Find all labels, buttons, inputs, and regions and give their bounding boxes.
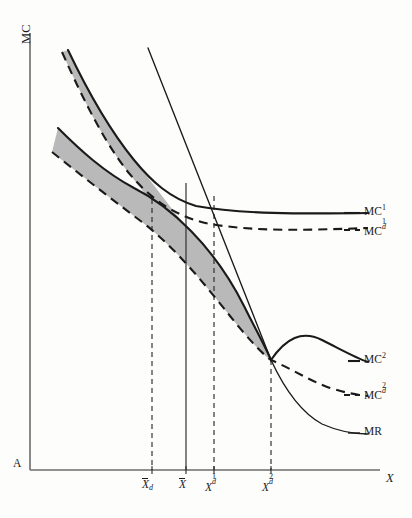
series-label-mc1-d-indices: 1d [382, 223, 388, 235]
x-tick-label-x-d-2: X2d [262, 479, 275, 493]
x-tick-label-x-bar-d-sub: d [149, 483, 153, 492]
series-label-mc2-d-text: MC [364, 389, 382, 401]
x-axis-title: X [386, 472, 394, 485]
curve-mc2 [58, 128, 368, 362]
origin-label: A [13, 458, 21, 470]
series-label-mc2-d: MC2d [364, 387, 388, 401]
x-tick-label-x-d-1: X1d [205, 479, 218, 493]
figure-container: MC A X MC1 MC1d MC2 MC2d MR Xd X X1d X2d [0, 0, 412, 518]
x-tick-label-x-d-2-indices: 2d [269, 479, 275, 491]
series-label-mc1-d: MC1d [364, 223, 388, 237]
series-label-mc2-sup: 2 [382, 351, 386, 360]
series-label-mc1-sup: 1 [382, 203, 386, 212]
x-tick-label-x-d-1-base: X [205, 481, 212, 493]
x-tick-label-x-d-2-base: X [262, 481, 269, 493]
x-tick-label-x-bar: X [179, 479, 186, 491]
chart-canvas [0, 0, 412, 518]
x-tick-label-x-bar-base: X [179, 479, 186, 491]
series-label-mr: MR [364, 426, 382, 438]
series-label-mc1-text: MC [364, 205, 382, 217]
y-axis-title: MC [20, 24, 33, 44]
series-label-mc2: MC2 [364, 354, 386, 366]
series-label-mc2-text: MC [364, 353, 382, 365]
x-tick-label-x-bar-d-base: X [142, 479, 149, 491]
series-label-mc2-d-indices: 2d [382, 387, 388, 399]
x-tick-label-x-bar-d: Xd [142, 479, 153, 491]
x-tick-label-x-d-1-indices: 1d [212, 479, 218, 491]
series-label-mc1: MC1 [364, 206, 386, 218]
series-label-mc1-d-text: MC [364, 225, 382, 237]
